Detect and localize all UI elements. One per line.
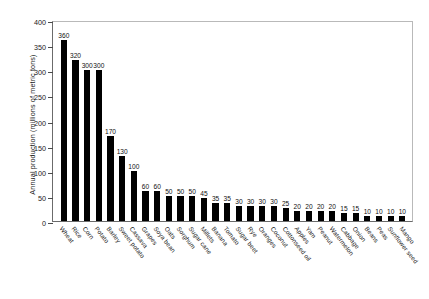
bar-value-label: 50 bbox=[165, 188, 172, 195]
x-label-cell: Rye bbox=[245, 223, 257, 299]
bar[interactable] bbox=[247, 206, 253, 221]
bar-value-label: 300 bbox=[93, 62, 104, 69]
bar-value-label: 30 bbox=[247, 198, 254, 205]
bar-item[interactable]: 130 bbox=[116, 22, 128, 221]
bar[interactable] bbox=[294, 211, 300, 221]
bar-value-label: 30 bbox=[270, 198, 277, 205]
bar[interactable] bbox=[399, 216, 405, 221]
plot-area: 050100150200250300350400 360320300300170… bbox=[52, 21, 413, 222]
x-label-cell: Soya bean bbox=[151, 223, 163, 299]
y-tick-label: 0 bbox=[42, 219, 46, 228]
bar[interactable] bbox=[329, 211, 335, 221]
x-label-cell: Millets bbox=[198, 223, 210, 299]
bar[interactable] bbox=[189, 196, 195, 221]
bar-value-label: 10 bbox=[364, 208, 371, 215]
bar-item[interactable]: 300 bbox=[81, 22, 93, 221]
bar[interactable] bbox=[388, 216, 394, 221]
bar-value-label: 50 bbox=[177, 188, 184, 195]
bar-item[interactable]: 10 bbox=[385, 22, 397, 221]
bar[interactable] bbox=[107, 136, 113, 221]
bar[interactable] bbox=[283, 208, 289, 221]
bar-item[interactable]: 360 bbox=[58, 22, 70, 221]
x-label-cell: Sweet potato bbox=[116, 223, 128, 299]
bar-item[interactable]: 100 bbox=[128, 22, 140, 221]
bar-value-label: 20 bbox=[317, 203, 324, 210]
x-label-cell: Sorghum bbox=[174, 223, 186, 299]
x-label-cell: Sugar cane bbox=[186, 223, 198, 299]
bar[interactable] bbox=[142, 191, 148, 221]
bar-value-label: 130 bbox=[117, 148, 128, 155]
bar-item[interactable]: 30 bbox=[233, 22, 245, 221]
bar[interactable] bbox=[259, 206, 265, 221]
x-label-cell: Sunflower seed bbox=[386, 223, 398, 299]
x-label-cell: Beans bbox=[362, 223, 374, 299]
bar[interactable] bbox=[364, 216, 370, 221]
x-label-cell: Oats bbox=[163, 223, 175, 299]
bar-item[interactable]: 20 bbox=[315, 22, 327, 221]
bar[interactable] bbox=[224, 203, 230, 221]
bar[interactable] bbox=[306, 211, 312, 221]
bar[interactable] bbox=[271, 206, 277, 221]
bar-item[interactable]: 170 bbox=[105, 22, 117, 221]
bar[interactable] bbox=[353, 213, 359, 221]
x-label-cell: Sugar beet bbox=[233, 223, 245, 299]
bar[interactable] bbox=[84, 70, 90, 221]
bar-item[interactable]: 35 bbox=[210, 22, 222, 221]
y-tick-label: 300 bbox=[34, 68, 46, 77]
bar-item[interactable]: 300 bbox=[93, 22, 105, 221]
bar[interactable] bbox=[61, 40, 67, 221]
bar-value-label: 25 bbox=[282, 200, 289, 207]
x-label-cell: Tomato bbox=[221, 223, 233, 299]
bar[interactable] bbox=[166, 196, 172, 221]
bar-item[interactable]: 15 bbox=[350, 22, 362, 221]
bar[interactable] bbox=[201, 198, 207, 221]
bar[interactable] bbox=[177, 196, 183, 221]
x-label-cell: Barley bbox=[104, 223, 116, 299]
y-tick-label: 100 bbox=[34, 168, 46, 177]
bar-value-label: 20 bbox=[329, 203, 336, 210]
x-label-cell: Peanut bbox=[315, 223, 327, 299]
bar-item[interactable]: 50 bbox=[175, 22, 187, 221]
x-label-cell: Corn bbox=[80, 223, 92, 299]
bar-value-label: 60 bbox=[154, 183, 161, 190]
bar[interactable] bbox=[131, 171, 137, 221]
bar-item[interactable]: 320 bbox=[70, 22, 82, 221]
bar[interactable] bbox=[318, 211, 324, 221]
x-label-cell: Yam bbox=[303, 223, 315, 299]
bar-item[interactable]: 10 bbox=[396, 22, 408, 221]
bar[interactable] bbox=[119, 156, 125, 221]
bar-item[interactable]: 10 bbox=[361, 22, 373, 221]
bar[interactable] bbox=[341, 213, 347, 221]
x-label-cell: Coconut bbox=[268, 223, 280, 299]
bar-item[interactable]: 20 bbox=[291, 22, 303, 221]
bar-item[interactable]: 60 bbox=[140, 22, 152, 221]
bar[interactable] bbox=[72, 60, 78, 221]
bar[interactable] bbox=[236, 206, 242, 221]
y-tick-label: 250 bbox=[34, 93, 46, 102]
y-tick-label: 350 bbox=[34, 43, 46, 52]
bar-chart: Annual production (millions of metric to… bbox=[0, 0, 429, 299]
bar-item[interactable]: 20 bbox=[303, 22, 315, 221]
bar[interactable] bbox=[96, 70, 102, 221]
bar-value-label: 35 bbox=[212, 195, 219, 202]
bar-item[interactable]: 50 bbox=[163, 22, 175, 221]
bar-item[interactable]: 30 bbox=[256, 22, 268, 221]
bar-item[interactable]: 15 bbox=[338, 22, 350, 221]
x-label-cell: Apples bbox=[292, 223, 304, 299]
bar-item[interactable]: 25 bbox=[280, 22, 292, 221]
bar-item[interactable]: 50 bbox=[186, 22, 198, 221]
bar-item[interactable]: 30 bbox=[245, 22, 257, 221]
bar[interactable] bbox=[212, 203, 218, 221]
bar-value-label: 30 bbox=[235, 198, 242, 205]
bar-item[interactable]: 35 bbox=[221, 22, 233, 221]
x-label-cell: Oranges bbox=[256, 223, 268, 299]
bar-item[interactable]: 45 bbox=[198, 22, 210, 221]
bar-item[interactable]: 10 bbox=[373, 22, 385, 221]
x-label-cell: Onion bbox=[350, 223, 362, 299]
bar-item[interactable]: 60 bbox=[151, 22, 163, 221]
bar-item[interactable]: 20 bbox=[326, 22, 338, 221]
bar-value-label: 360 bbox=[58, 32, 69, 39]
bar[interactable] bbox=[376, 216, 382, 221]
bar[interactable] bbox=[154, 191, 160, 221]
bar-item[interactable]: 30 bbox=[268, 22, 280, 221]
